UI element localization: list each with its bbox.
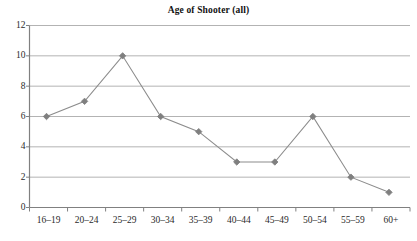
chart-plot-area xyxy=(0,0,417,241)
data-series-line xyxy=(47,56,389,193)
x-axis-tick-label: 45–49 xyxy=(258,215,296,226)
chart-container: Age of Shooter (all) 024681012 16–1920–2… xyxy=(0,0,417,241)
y-axis-tick-label: 0 xyxy=(4,202,26,212)
x-axis-tick-label: 16–19 xyxy=(30,215,68,226)
x-axis-tick-label: 20–24 xyxy=(68,215,106,226)
y-axis-tick-label: 6 xyxy=(4,111,26,121)
x-axis-tick-label: 50–54 xyxy=(296,215,334,226)
data-point-marker xyxy=(348,174,354,180)
data-point-marker xyxy=(43,113,49,119)
data-point-markers xyxy=(43,53,392,196)
x-axis-tick-label: 60+ xyxy=(372,215,410,226)
x-axis-tick-label: 55–59 xyxy=(334,215,372,226)
data-point-marker xyxy=(157,113,163,119)
y-axis-tick-label: 8 xyxy=(4,81,26,91)
x-axis-tick-label: 25–29 xyxy=(106,215,144,226)
y-axis-tick-label: 2 xyxy=(4,172,26,182)
y-axis-tick-label: 4 xyxy=(4,141,26,151)
x-axis-tick-label: 30–34 xyxy=(144,215,182,226)
y-axis-tick-label: 10 xyxy=(4,50,26,60)
data-point-marker xyxy=(386,189,392,195)
x-axis-tick-marks xyxy=(30,208,411,212)
y-axis-tick-label: 12 xyxy=(4,20,26,30)
x-axis-tick-label: 35–39 xyxy=(182,215,220,226)
x-axis-tick-label: 40–44 xyxy=(220,215,258,226)
